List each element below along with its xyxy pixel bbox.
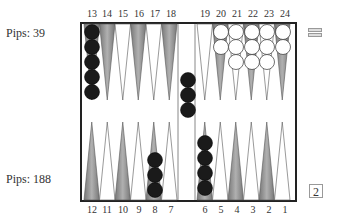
checkers-point-8[interactable]: [148, 153, 163, 198]
doubling-cube[interactable]: 2: [309, 184, 323, 198]
point-12: [84, 122, 100, 200]
point-16: [131, 24, 147, 100]
board-graphics[interactable]: [0, 0, 342, 222]
point-14: [100, 24, 116, 100]
point-9: [131, 122, 147, 200]
checkers-point-13[interactable]: [85, 25, 100, 100]
point-3: [244, 122, 260, 200]
point-11: [100, 122, 116, 200]
point-18: [162, 24, 178, 100]
point-17: [146, 24, 162, 100]
checkers-bar[interactable]: [181, 73, 196, 118]
point-1: [275, 122, 291, 200]
bottom-points-left[interactable]: [84, 122, 177, 200]
point-15: [115, 24, 131, 100]
point-19: [197, 24, 213, 100]
point-2: [259, 122, 275, 200]
hamburger-icon[interactable]: [308, 28, 322, 35]
point-4: [228, 122, 244, 200]
point-7: [162, 122, 178, 200]
point-5: [213, 122, 229, 200]
point-10: [115, 122, 131, 200]
checkers-point-6[interactable]: [198, 136, 213, 196]
